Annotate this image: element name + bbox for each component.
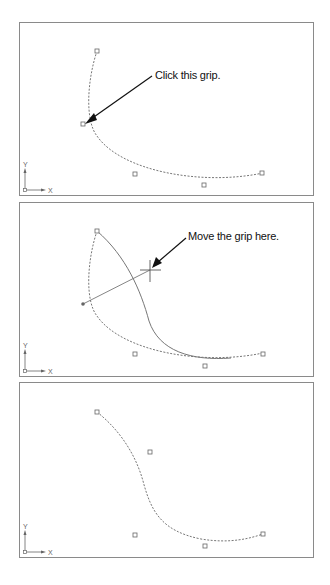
callout-move-grip: Move the grip here. <box>188 230 279 242</box>
ucs-icon: Y X <box>23 523 53 556</box>
callout-arrowhead <box>152 257 162 268</box>
grip-start <box>95 410 99 414</box>
drawing-canvas: Y X <box>20 23 315 197</box>
panel-step-1-select-grip: Y X Click this grip. <box>19 22 314 196</box>
grip-control-1 <box>133 172 137 176</box>
grip-control-2 <box>203 544 207 548</box>
callout-arrow-line <box>91 76 152 119</box>
grip-end <box>260 171 264 175</box>
ucs-y-label: Y <box>23 342 28 349</box>
grip-moved <box>148 450 152 454</box>
preview-spline-curve <box>97 231 231 359</box>
grip-selected-hot <box>81 302 85 306</box>
grip-selected <box>81 122 85 126</box>
grip-control-1 <box>133 352 137 356</box>
grip-start <box>95 229 99 233</box>
grip-control-1 <box>133 533 137 537</box>
ucs-icon: Y X <box>23 342 53 375</box>
ucs-x-label: X <box>48 368 53 375</box>
callout-arrow-line <box>158 238 186 262</box>
ucs-x-label: X <box>48 549 53 556</box>
grip-control-2 <box>202 183 206 187</box>
edited-spline-curve <box>97 412 263 541</box>
ucs-x-label: X <box>48 187 53 194</box>
ucs-icon: Y X <box>23 161 53 194</box>
ucs-y-label: Y <box>23 523 28 530</box>
panel-step-3-result: Y X <box>19 382 314 558</box>
grip-end <box>261 352 265 356</box>
grip-start <box>95 49 99 53</box>
panel-step-2-move-grip: Y X Move the grip here. <box>19 202 314 377</box>
grip-control-2 <box>203 364 207 368</box>
callout-click-grip: Click this grip. <box>155 69 220 81</box>
drawing-canvas: Y X <box>20 383 315 559</box>
rubber-band-line <box>83 270 150 304</box>
callout-arrowhead <box>85 113 97 124</box>
ucs-y-label: Y <box>23 161 28 168</box>
grip-end <box>261 532 265 536</box>
